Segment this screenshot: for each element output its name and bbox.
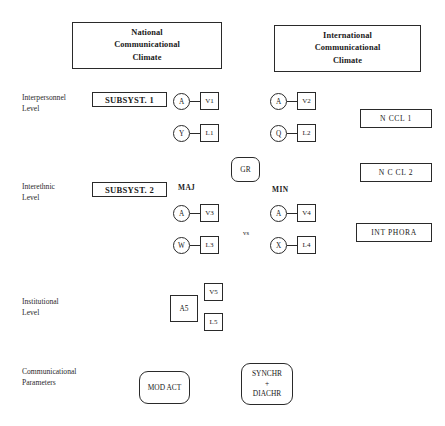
node-box-v4-label: V4 [302, 209, 311, 217]
nccl-2-label: N C CL 2 [379, 168, 413, 177]
node-circle-a-v4: A [270, 205, 287, 222]
connector-a-v4 [287, 213, 297, 214]
connector-q-l2 [287, 133, 297, 134]
node-box-v4: V4 [297, 204, 316, 222]
nccl-2-box: N C CL 2 [360, 163, 432, 182]
international-climate-line-2: Communicational [315, 42, 381, 54]
node-box-v1-label: V1 [205, 97, 214, 105]
institutional-actor-box: A5 [170, 295, 198, 322]
institutional-label-line-1: Institutional [22, 296, 102, 307]
institutional-actor-label: A5 [179, 304, 188, 313]
node-circle-a-v2-label: A [276, 98, 281, 106]
node-box-l4: L4 [297, 236, 316, 254]
node-box-v1: V1 [200, 92, 219, 110]
communicational-parameters-label: Communicational Parameters [22, 366, 117, 389]
nccl-1-box: N CCL 1 [360, 109, 432, 128]
node-box-l5: L5 [204, 313, 223, 331]
node-circle-w-l3: W [173, 237, 190, 254]
node-box-l3-label: L3 [206, 241, 214, 249]
node-box-l1-label: L1 [206, 129, 214, 137]
node-box-v2-label: V2 [302, 97, 311, 105]
interpersonnel-label-line-1: Interpersonnel [22, 92, 102, 103]
node-circle-x-l4-label: X [276, 242, 281, 250]
gr-label: GR [240, 165, 250, 175]
node-box-l2-label: L2 [303, 129, 311, 137]
node-box-v3-label: V3 [205, 209, 214, 217]
node-circle-q-l2-label: Q [276, 130, 281, 138]
node-box-v3: V3 [200, 204, 219, 222]
subsystem-1-box: SUBSYST. 1 [92, 92, 167, 107]
node-box-l2: L2 [297, 124, 316, 142]
node-box-l5-label: L5 [210, 318, 218, 326]
institutional-label-line-2: Level [22, 307, 102, 318]
synchr-diachr-shape: SYNCHR + DIACHR [241, 363, 293, 405]
national-climate-line-2: Communicational [114, 39, 180, 51]
connector-y-l1 [190, 133, 200, 134]
node-box-l3: L3 [200, 236, 219, 254]
node-circle-y-l1-label: Y [179, 130, 184, 138]
connector-a-v2 [287, 101, 297, 102]
subsystem-2-box: SUBSYST. 2 [92, 182, 167, 197]
international-climate-box: International Communicational Climate [274, 25, 421, 72]
node-circle-a-v3-label: A [179, 210, 184, 218]
node-circle-y-l1: Y [173, 125, 190, 142]
subsystem-1-label: SUBSYST. 1 [105, 95, 154, 105]
interpersonnel-label-line-2: Level [22, 103, 102, 114]
synchr-label: SYNCHR [252, 369, 282, 379]
international-climate-line-3: Climate [315, 55, 381, 67]
connector-x-l4 [287, 245, 297, 246]
int-phora-box: INT PHORA [356, 223, 432, 242]
node-circle-x-l4: X [270, 237, 287, 254]
interethnic-label-line-2: Level [22, 192, 102, 203]
interethnic-level-label: Interethnic Level [22, 181, 102, 204]
node-box-v2: V2 [297, 92, 316, 110]
vs-label: vs [243, 229, 249, 236]
node-circle-a-v1: A [173, 93, 190, 110]
institutional-level-label: Institutional Level [22, 296, 102, 319]
gr-shape: GR [231, 157, 260, 182]
connector-w-l3 [190, 245, 200, 246]
international-climate-line-1: International [315, 30, 381, 42]
parameters-label-line-1: Communicational [22, 366, 117, 377]
node-circle-a-v1-label: A [179, 98, 184, 106]
node-box-l4-label: L4 [303, 241, 311, 249]
connector-a-v3 [190, 213, 200, 214]
min-label: MIN [272, 185, 288, 194]
interethnic-label-line-1: Interethnic [22, 181, 102, 192]
connector-a-v1 [190, 101, 200, 102]
diachr-label: DIACHR [253, 389, 281, 399]
node-box-v5: V5 [204, 283, 223, 301]
node-circle-w-l3-label: W [178, 242, 185, 250]
diagram-canvas: National Communicational Climate Interna… [0, 0, 445, 426]
nccl-1-label: N CCL 1 [380, 114, 412, 123]
node-box-l1: L1 [200, 124, 219, 142]
node-circle-q-l2: Q [270, 125, 287, 142]
subsystem-2-label: SUBSYST. 2 [105, 185, 154, 195]
int-phora-label: INT PHORA [371, 228, 417, 237]
national-climate-line-1: National [114, 27, 180, 39]
node-circle-a-v2: A [270, 93, 287, 110]
plus-sign: + [265, 379, 269, 389]
node-circle-a-v4-label: A [276, 210, 281, 218]
node-circle-a-v3: A [173, 205, 190, 222]
national-climate-line-3: Climate [114, 52, 180, 64]
national-climate-box: National Communicational Climate [72, 22, 222, 69]
mod-act-shape: MOD ACT [139, 371, 190, 404]
interpersonnel-level-label: Interpersonnel Level [22, 92, 102, 115]
node-box-v5-label: V5 [209, 288, 218, 296]
parameters-label-line-2: Parameters [22, 377, 117, 388]
mod-act-label: MOD ACT [148, 383, 181, 393]
maj-label: MAJ [178, 183, 195, 192]
